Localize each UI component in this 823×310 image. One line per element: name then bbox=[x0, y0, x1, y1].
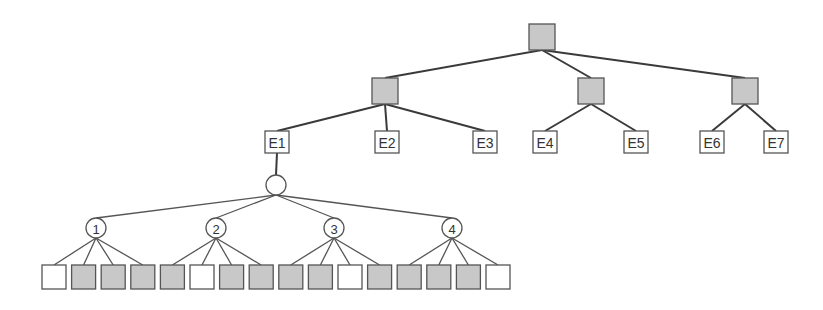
leaf-node-13[interactable] bbox=[397, 265, 421, 289]
edge-hub-to-n4 bbox=[276, 195, 452, 218]
tree-diagram: E1E2E3E4E5E6E71234 bbox=[0, 0, 823, 310]
root-decision-node[interactable] bbox=[529, 24, 555, 50]
leaf-node-8[interactable] bbox=[249, 265, 273, 289]
leaf-node-7[interactable] bbox=[220, 265, 244, 289]
leaf-node-10[interactable] bbox=[308, 265, 332, 289]
edge-to-e6 bbox=[712, 104, 745, 131]
leaf-node-2[interactable] bbox=[72, 265, 96, 289]
edge-root-to-decision-1 bbox=[385, 50, 542, 78]
leaf-node-11[interactable] bbox=[338, 265, 362, 289]
leaf-node-16[interactable] bbox=[486, 265, 510, 289]
leaf-node-14[interactable] bbox=[427, 265, 451, 289]
edge-to-e3 bbox=[385, 104, 485, 131]
edge-n2-to-leaf-8 bbox=[216, 238, 261, 265]
chance-node-label-3: 3 bbox=[330, 222, 337, 237]
edge-n4-to-leaf-16 bbox=[452, 238, 498, 265]
leaf-node-6[interactable] bbox=[190, 265, 214, 289]
event-label-e4: E4 bbox=[536, 135, 553, 151]
event-label-e1: E1 bbox=[268, 135, 285, 151]
leaf-node-12[interactable] bbox=[368, 265, 392, 289]
edge-n3-to-leaf-12 bbox=[334, 238, 380, 265]
chance-node-label-4: 4 bbox=[448, 222, 455, 237]
leaf-node-15[interactable] bbox=[456, 265, 480, 289]
event-label-e3: E3 bbox=[476, 135, 493, 151]
edge-to-e2 bbox=[385, 104, 387, 131]
edge-to-e5 bbox=[591, 104, 636, 131]
edge-to-e1 bbox=[277, 104, 385, 131]
leaf-node-1[interactable] bbox=[42, 265, 66, 289]
edge-n4-to-leaf-15 bbox=[452, 238, 468, 265]
decision-node-3[interactable] bbox=[732, 78, 758, 104]
event-label-e2: E2 bbox=[378, 135, 395, 151]
event-label-e5: E5 bbox=[627, 135, 644, 151]
chance-hub-node[interactable] bbox=[266, 175, 286, 195]
edge-hub-to-n1 bbox=[96, 195, 276, 218]
edge-to-e7 bbox=[745, 104, 776, 131]
chance-node-label-1: 1 bbox=[92, 222, 99, 237]
edges-layer bbox=[54, 50, 776, 265]
edge-to-e4 bbox=[545, 104, 591, 131]
event-label-e6: E6 bbox=[703, 135, 720, 151]
decision-node-2[interactable] bbox=[578, 78, 604, 104]
edge-n1-to-leaf-4 bbox=[96, 238, 143, 265]
leaf-node-5[interactable] bbox=[160, 265, 184, 289]
edge-e1-to-hub bbox=[276, 153, 277, 175]
edge-root-to-decision-3 bbox=[542, 50, 745, 78]
edge-n1-to-leaf-3 bbox=[96, 238, 113, 265]
chance-node-label-2: 2 bbox=[212, 222, 219, 237]
decision-node-1[interactable] bbox=[372, 78, 398, 104]
leaf-node-9[interactable] bbox=[279, 265, 303, 289]
nodes-layer: E1E2E3E4E5E6E71234 bbox=[42, 24, 788, 289]
leaf-node-4[interactable] bbox=[131, 265, 155, 289]
leaf-node-3[interactable] bbox=[101, 265, 125, 289]
event-label-e7: E7 bbox=[767, 135, 784, 151]
